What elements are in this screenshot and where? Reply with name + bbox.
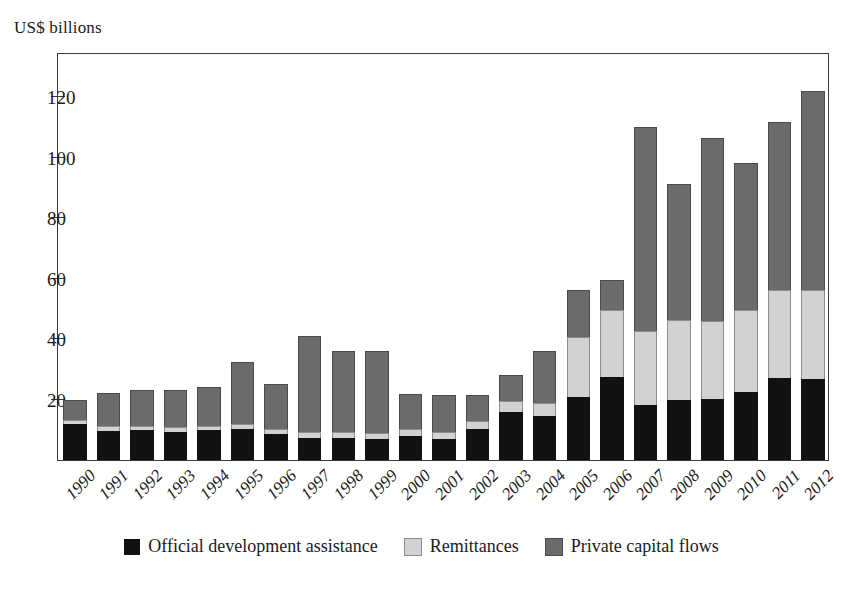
bar-segment-pcf <box>197 387 220 426</box>
bar-2000 <box>399 394 422 460</box>
x-tick-label-2011: 2011 <box>767 466 804 503</box>
bar-segment-oda <box>231 429 254 460</box>
bar-segment-pcf <box>63 400 86 420</box>
bar-2011 <box>768 122 791 460</box>
x-tick-label-1992: 1992 <box>129 466 167 504</box>
bar-segment-rem <box>600 310 623 378</box>
x-tick-label-2006: 2006 <box>599 466 637 504</box>
x-tick-label-2001: 2001 <box>431 466 469 504</box>
legend-label: Official development assistance <box>148 536 378 557</box>
legend-swatch-icon <box>545 538 563 556</box>
bar-segment-pcf <box>567 290 590 337</box>
bar-segment-pcf <box>332 351 355 433</box>
x-tick-label-2007: 2007 <box>632 466 670 504</box>
bar-segment-pcf <box>600 280 623 310</box>
bar-segment-oda <box>365 439 388 460</box>
bar-segment-oda <box>567 397 590 460</box>
legend-swatch-icon <box>404 538 422 556</box>
bar-segment-oda <box>432 439 455 460</box>
bar-1998 <box>332 351 355 460</box>
x-tick-label-1993: 1993 <box>162 466 200 504</box>
x-tick-label-2010: 2010 <box>733 466 771 504</box>
x-tick-label-2002: 2002 <box>465 466 503 504</box>
bar-2003 <box>499 375 522 460</box>
x-tick-label-2004: 2004 <box>532 466 570 504</box>
bar-segment-pcf <box>399 394 422 429</box>
bar-1991 <box>97 393 120 460</box>
bar-1996 <box>264 384 287 460</box>
bar-segment-oda <box>768 378 791 460</box>
bar-2004 <box>533 351 556 460</box>
bar-1990 <box>63 400 86 460</box>
x-tick-label-1996: 1996 <box>263 466 301 504</box>
bar-segment-rem <box>734 310 757 393</box>
bar-segment-pcf <box>164 390 187 427</box>
bar-2006 <box>600 280 623 460</box>
x-tick-label-1995: 1995 <box>230 466 268 504</box>
bar-2001 <box>432 395 455 460</box>
bar-1995 <box>231 362 254 460</box>
bar-segment-pcf <box>298 336 321 433</box>
bar-segment-rem <box>634 331 657 405</box>
bar-segment-pcf <box>97 393 120 426</box>
plot-area: 20406080100120 <box>57 53 829 461</box>
x-tick-label-2008: 2008 <box>666 466 704 504</box>
legend-swatch-icon <box>124 539 140 555</box>
bar-segment-rem <box>567 337 590 397</box>
bar-segment-pcf <box>432 395 455 432</box>
bar-2008 <box>667 184 690 460</box>
bar-segment-pcf <box>734 163 757 310</box>
bar-segment-pcf <box>130 390 153 426</box>
bar-1992 <box>130 390 153 460</box>
bar-segment-rem <box>399 429 422 436</box>
bar-segment-pcf <box>701 138 724 321</box>
bar-segment-rem <box>499 401 522 412</box>
x-tick-label-2012: 2012 <box>800 466 838 504</box>
bar-1993 <box>164 390 187 460</box>
bar-segment-oda <box>197 430 220 460</box>
bar-segment-oda <box>332 438 355 460</box>
bar-segment-pcf <box>231 362 254 424</box>
bar-segment-rem <box>667 320 690 400</box>
bar-segment-oda <box>97 431 120 460</box>
bar-segment-pcf <box>499 375 522 401</box>
chart-legend: Official development assistanceRemittanc… <box>0 536 843 557</box>
x-tick-label-2000: 2000 <box>397 466 435 504</box>
x-tick-label-1994: 1994 <box>196 466 234 504</box>
bar-segment-pcf <box>768 122 791 291</box>
bar-segment-oda <box>600 377 623 460</box>
bar-segment-pcf <box>466 395 489 422</box>
bar-segment-pcf <box>533 351 556 403</box>
bar-segment-rem <box>432 432 455 440</box>
x-tick-label-2005: 2005 <box>565 466 603 504</box>
x-tick-label-1999: 1999 <box>364 466 402 504</box>
bar-2007 <box>634 127 657 460</box>
bar-segment-rem <box>466 421 489 428</box>
legend-label: Private capital flows <box>571 536 719 557</box>
bar-2002 <box>466 395 489 460</box>
bar-2012 <box>801 91 824 460</box>
bar-1997 <box>298 336 321 461</box>
x-tick-label-1990: 1990 <box>62 466 100 504</box>
bar-segment-pcf <box>667 184 690 319</box>
y-axis-title: US$ billions <box>14 18 102 38</box>
bar-segment-pcf <box>264 384 287 428</box>
bar-segment-oda <box>399 436 422 460</box>
bar-segment-oda <box>130 430 153 460</box>
bar-2005 <box>567 290 590 460</box>
legend-label: Remittances <box>430 536 519 557</box>
x-tick-label-1997: 1997 <box>297 466 335 504</box>
bar-2009 <box>701 138 724 460</box>
bar-segment-oda <box>63 424 86 460</box>
legend-item-pcf[interactable]: Private capital flows <box>545 536 719 557</box>
legend-item-oda[interactable]: Official development assistance <box>124 536 378 557</box>
x-tick-label-1991: 1991 <box>95 466 133 504</box>
bar-segment-rem <box>701 321 724 399</box>
bar-segment-oda <box>164 432 187 460</box>
bar-segment-pcf <box>634 127 657 331</box>
bar-1994 <box>197 387 220 460</box>
bar-segment-oda <box>701 399 724 460</box>
x-tick-label-1998: 1998 <box>330 466 368 504</box>
legend-item-rem[interactable]: Remittances <box>404 536 519 557</box>
bar-segment-oda <box>298 438 321 460</box>
